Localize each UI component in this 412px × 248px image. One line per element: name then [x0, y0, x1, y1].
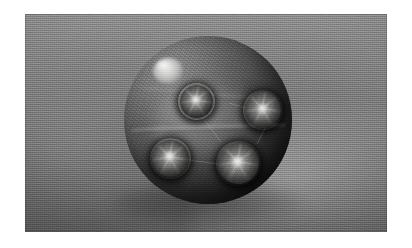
photo-edge-border [25, 14, 387, 232]
photograph [25, 14, 387, 232]
page-root [0, 0, 412, 248]
